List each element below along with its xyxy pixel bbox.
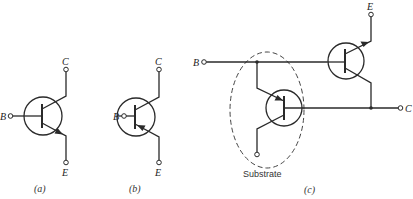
emitter-lead-a	[42, 123, 66, 160]
emitter-label-b: E	[154, 167, 161, 178]
caption-a: (a)	[34, 183, 46, 195]
emitter-terminal-c[interactable]	[369, 12, 374, 17]
panel-c: B E C Substrate (c)	[193, 1, 412, 196]
collector-label-c: C	[405, 103, 412, 114]
base-label-a: B	[0, 111, 6, 122]
base-label-c: B	[193, 57, 199, 68]
base-terminal-c[interactable]	[202, 60, 207, 65]
collector-label-b: C	[155, 56, 162, 67]
emitter-label-c: E	[366, 1, 373, 12]
emitter-lead-lower	[257, 62, 284, 101]
collector-lead-a	[42, 72, 66, 109]
substrate-boundary	[230, 52, 304, 168]
collector-lead-b	[135, 72, 159, 110]
emitter-terminal-a[interactable]	[64, 160, 69, 165]
collector-label-a: C	[62, 56, 69, 67]
emitter-label-a: E	[61, 167, 68, 178]
substrate-terminal[interactable]	[255, 152, 260, 157]
collector-terminal-c[interactable]	[398, 106, 403, 111]
base-terminal-a[interactable]	[8, 114, 13, 119]
emitter-terminal-b[interactable]	[157, 160, 162, 165]
collector-terminal-b[interactable]	[157, 67, 162, 72]
collector-terminal-a[interactable]	[64, 67, 69, 72]
emitter-lead-b	[135, 124, 159, 160]
panel-b: B C E (b)	[113, 56, 162, 195]
panel-a: B C E (a)	[0, 56, 69, 195]
transistor-figure: B C E (a) B C E (b) B	[0, 0, 413, 199]
base-label-b: B	[113, 111, 119, 122]
emitter-arrow-in-icon	[137, 125, 146, 131]
caption-c: (c)	[304, 184, 316, 196]
substrate-label: Substrate	[243, 169, 282, 179]
caption-b: (b)	[129, 183, 141, 195]
junction-dot-collector	[369, 106, 373, 110]
emitter-arrow-out-icon	[55, 128, 64, 135]
base-terminal-b[interactable]	[122, 114, 127, 119]
